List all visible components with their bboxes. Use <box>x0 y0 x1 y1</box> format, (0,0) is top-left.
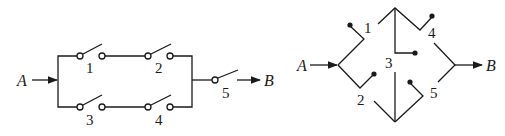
switch-3-label: 3 <box>385 55 393 71</box>
switch-4-label: 4 <box>428 25 436 41</box>
wire <box>434 43 455 82</box>
switch-3-label: 3 <box>86 112 94 128</box>
right-network: A 1 2 4 3 5 <box>296 8 496 122</box>
right-bus <box>173 56 192 107</box>
switch-1: 1 <box>338 20 372 65</box>
switch-4: 4 <box>145 95 173 128</box>
switch-3: 3 <box>77 95 105 128</box>
switch-5: 5 <box>212 70 238 101</box>
switch-1: 1 <box>77 44 105 76</box>
switch-2: 2 <box>338 65 377 108</box>
input-label-a: A <box>16 72 27 89</box>
switch-2: 2 <box>145 44 173 76</box>
input-label-a: A <box>296 57 307 74</box>
switch-1-label: 1 <box>86 60 94 76</box>
switch-4-label: 4 <box>155 112 163 128</box>
output-label-b: B <box>264 72 274 89</box>
wire <box>374 101 395 122</box>
switch-2-label: 2 <box>155 60 163 76</box>
switch-5-label: 5 <box>222 85 230 101</box>
circuit-diagrams: A 1 2 3 <box>0 0 505 136</box>
switch-5-label: 5 <box>430 85 438 101</box>
left-network: A 1 2 3 <box>16 44 274 128</box>
output-label-b: B <box>486 57 496 74</box>
switch-2-label: 2 <box>357 92 365 108</box>
switch-3: 3 <box>385 8 418 71</box>
switch-1-label: 1 <box>364 20 372 36</box>
left-bus <box>58 56 78 107</box>
switch-5: 5 <box>395 79 438 122</box>
switch-4: 4 <box>378 8 436 41</box>
